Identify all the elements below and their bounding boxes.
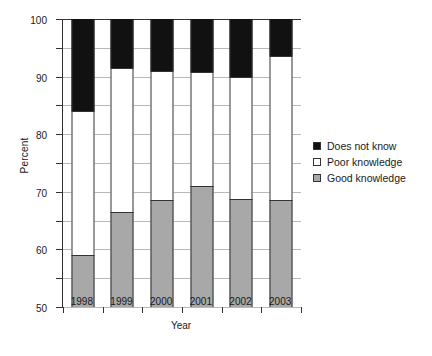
stacked-bar[interactable]: [71, 19, 94, 307]
bar-group: [142, 19, 182, 307]
y-axis-tick: 60: [56, 134, 63, 135]
legend-item[interactable]: Good knowledge: [313, 170, 428, 185]
bar-group: [261, 19, 301, 307]
bar-segment-does-not-know[interactable]: [71, 19, 94, 111]
y-axis-tick: 30: [56, 221, 63, 222]
y-axis-tick: 40: [56, 192, 63, 193]
bar-group: [103, 19, 143, 307]
y-axis-tick: 90: [56, 48, 63, 49]
y-axis-tick-label: 100: [30, 15, 47, 26]
x-axis-tick: [63, 307, 64, 313]
legend-swatch-icon: [313, 158, 321, 166]
x-axis-tick: [222, 307, 223, 313]
y-axis-tick: 10: [56, 278, 63, 279]
legend-item-label: Good knowledge: [327, 172, 406, 184]
stacked-bar[interactable]: [190, 19, 213, 307]
bar-segment-does-not-know[interactable]: [151, 19, 174, 71]
legend-item-label: Poor knowledge: [327, 156, 402, 168]
bar-segment-poor-knowledge[interactable]: [230, 77, 253, 199]
bars-layer: [63, 19, 301, 307]
y-axis-tick-label: 50: [36, 303, 47, 314]
y-axis-tick: 50: [56, 163, 63, 164]
x-axis-tick-label: 2003: [260, 296, 300, 307]
x-axis-tick-label: 1999: [102, 296, 142, 307]
y-axis-tick: 70: [56, 105, 63, 106]
y-axis-tick: 100: [56, 19, 63, 20]
bar-segment-good-knowledge[interactable]: [111, 212, 134, 307]
bar-segment-good-knowledge[interactable]: [270, 200, 293, 307]
y-axis-tick-label: 80: [36, 130, 47, 141]
x-axis-title: Year: [62, 320, 300, 331]
legend-swatch-icon: [313, 174, 321, 182]
bar-group: [182, 19, 222, 307]
x-axis-tick: [103, 307, 104, 313]
stacked-bar-chart: Percent 0102030405060708090100 199819992…: [0, 0, 432, 356]
y-axis-tick: 20: [56, 249, 63, 250]
stacked-bar[interactable]: [270, 19, 293, 307]
y-axis-title: Percent: [19, 116, 30, 196]
stacked-bar[interactable]: [111, 19, 134, 307]
bar-segment-good-knowledge[interactable]: [151, 200, 174, 307]
y-axis-tick-label: 90: [36, 72, 47, 83]
bar-segment-poor-knowledge[interactable]: [270, 56, 293, 200]
bar-segment-poor-knowledge[interactable]: [151, 71, 174, 201]
x-axis-tick: [301, 307, 302, 313]
legend-item-label: Does not know: [327, 140, 396, 152]
legend-swatch-icon: [313, 142, 321, 150]
stacked-bar[interactable]: [230, 19, 253, 307]
plot-area: 0102030405060708090100: [62, 19, 301, 308]
legend-item[interactable]: Does not know: [313, 138, 428, 153]
legend-item[interactable]: Poor knowledge: [313, 154, 428, 169]
y-axis-tick: 0: [56, 307, 63, 308]
bar-segment-does-not-know[interactable]: [230, 19, 253, 77]
bar-segment-poor-knowledge[interactable]: [71, 111, 94, 255]
stacked-bar[interactable]: [151, 19, 174, 307]
x-axis-tick: [182, 307, 183, 313]
bar-segment-good-knowledge[interactable]: [230, 199, 253, 307]
bar-segment-good-knowledge[interactable]: [190, 186, 213, 307]
x-axis-tick-label: 2002: [221, 296, 261, 307]
y-axis-tick-label: 70: [36, 187, 47, 198]
bar-group: [63, 19, 103, 307]
x-axis-tick-label: 2001: [181, 296, 221, 307]
bar-group: [222, 19, 262, 307]
bar-segment-poor-knowledge[interactable]: [190, 72, 213, 186]
x-axis-tick: [261, 307, 262, 313]
chart-legend: Does not knowPoor knowledgeGood knowledg…: [313, 138, 428, 186]
bar-segment-does-not-know[interactable]: [190, 19, 213, 72]
bar-segment-poor-knowledge[interactable]: [111, 68, 134, 212]
y-axis-tick-label: 60: [36, 245, 47, 256]
y-axis-tick: 80: [56, 77, 63, 78]
bar-segment-does-not-know[interactable]: [111, 19, 134, 68]
bar-segment-does-not-know[interactable]: [270, 19, 293, 56]
x-axis-tick-label: 2000: [141, 296, 181, 307]
x-axis-tick: [142, 307, 143, 313]
x-axis-tick-label: 1998: [62, 296, 102, 307]
